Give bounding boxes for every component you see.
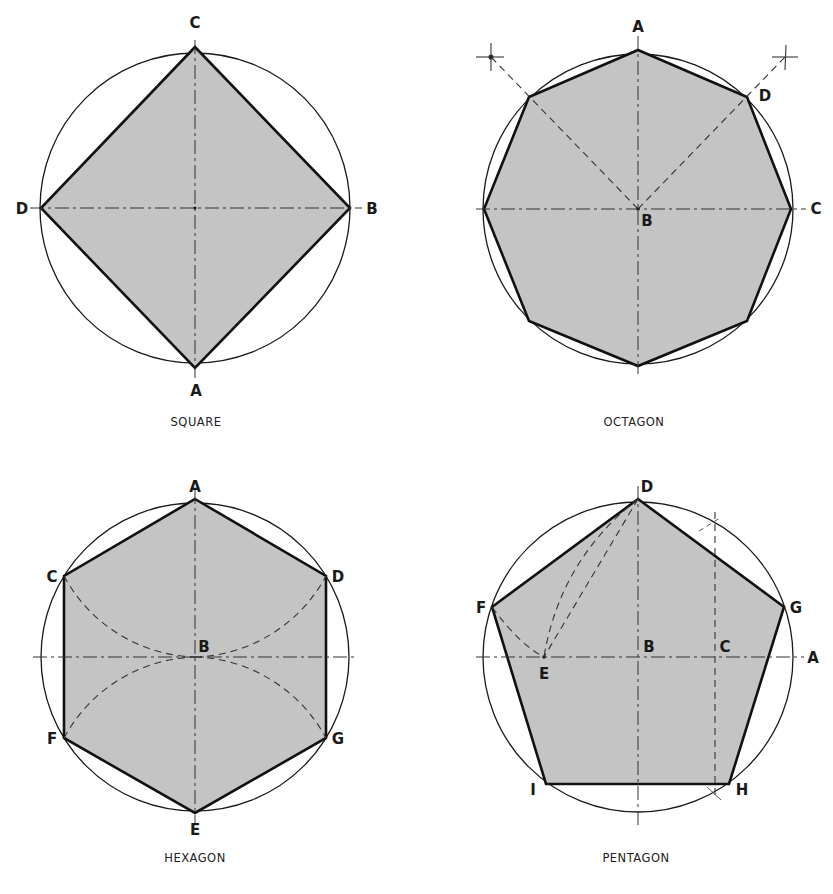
square-center-point xyxy=(193,206,196,209)
pentagon-label-h: H xyxy=(736,781,749,799)
pentagon-figure: D F G B C A E I H PENTAGON xyxy=(476,478,819,865)
pentagon-label-b: B xyxy=(643,638,654,656)
square-figure: C B A D SQUARE xyxy=(16,14,378,429)
octagon-label-a: A xyxy=(632,18,644,36)
pentagon-label-e: E xyxy=(539,665,549,683)
octagon-figure: A D B C OCTAGON xyxy=(476,18,822,429)
square-label-d: D xyxy=(16,200,28,218)
octagon-label-b: B xyxy=(641,212,652,230)
pentagon-label-a: A xyxy=(807,649,819,667)
pentagon-label-f: F xyxy=(476,599,486,617)
pentagon-label-g: G xyxy=(790,599,802,617)
octagon-label-d: D xyxy=(759,87,771,105)
hexagon-label-d: D xyxy=(332,568,344,586)
octagon-label-c: C xyxy=(810,200,821,218)
octagon-caption: OCTAGON xyxy=(604,415,665,429)
hexagon-label-b: B xyxy=(198,638,209,656)
pentagon-caption: PENTAGON xyxy=(602,851,669,865)
hexagon-label-g: G xyxy=(332,730,344,748)
hexagon-label-c: C xyxy=(46,568,57,586)
hexagon-label-f: F xyxy=(47,730,57,748)
hexagon-label-e: E xyxy=(190,821,200,839)
geometric-constructions-diagram: C B A D SQUARE A D B C OCTAGON xyxy=(0,0,833,894)
square-label-b: B xyxy=(366,200,377,218)
pentagon-label-d: D xyxy=(641,478,653,496)
hexagon-figure: A C D B F G E HEXAGON xyxy=(33,478,358,865)
hexagon-label-a: A xyxy=(189,478,201,496)
square-label-a: A xyxy=(190,382,202,400)
hexagon-caption: HEXAGON xyxy=(164,851,226,865)
square-label-c: C xyxy=(189,14,200,32)
square-caption: SQUARE xyxy=(171,415,222,429)
pentagon-label-c: C xyxy=(719,638,730,656)
pentagon-point-e xyxy=(542,655,546,659)
octagon-center-point xyxy=(636,207,640,211)
pentagon-label-i: I xyxy=(530,781,536,799)
